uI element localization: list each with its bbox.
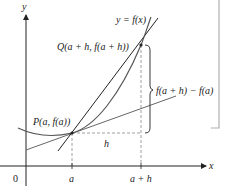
- y-axis-label: y: [21, 1, 27, 12]
- secant-line: [58, 18, 158, 151]
- difference-label: f(a + h) − f(a): [156, 85, 214, 97]
- point-p: [70, 131, 73, 134]
- h-label: h: [104, 138, 109, 149]
- point-p-label: P(a, f(a)): [32, 116, 71, 128]
- tick-label-a-plus-h: a + h: [130, 173, 152, 184]
- difference-brace: [145, 45, 153, 133]
- point-q: [139, 43, 142, 46]
- secant-diagram: y x 0 a a + h h y = f(x) Q(a + h, f(a + …: [0, 0, 225, 189]
- point-q-label: Q(a + h, f(a + h)): [57, 41, 129, 53]
- origin-label: 0: [13, 173, 18, 184]
- curve-label: y = f(x): [115, 14, 147, 26]
- tick-label-a: a: [69, 173, 74, 184]
- x-axis-label: x: [208, 160, 214, 171]
- frame-border: [211, 0, 219, 128]
